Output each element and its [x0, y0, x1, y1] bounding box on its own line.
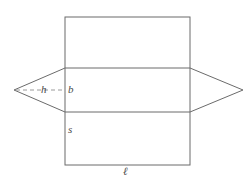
left-flap-lower-edge: [14, 90, 65, 112]
right-flap-upper-edge: [190, 68, 243, 90]
label-h: h: [41, 84, 47, 95]
label-b: b: [68, 84, 74, 95]
left-flap-upper-edge: [14, 68, 65, 90]
right-flap-lower-edge: [190, 90, 243, 112]
main-rectangle: [65, 17, 190, 165]
figure-canvas: [0, 0, 249, 183]
label-ell: ℓ: [123, 166, 128, 177]
label-s: s: [68, 124, 72, 135]
geometry-figure: h b s ℓ: [0, 0, 249, 183]
